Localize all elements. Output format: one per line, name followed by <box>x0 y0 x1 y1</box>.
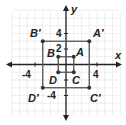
label-c: C <box>72 74 81 86</box>
label-d-prime: D′ <box>28 92 40 104</box>
tick-label-y-2: 2 <box>56 43 62 54</box>
point-d-prime <box>41 86 45 90</box>
tick-label-y-neg4: -4 <box>47 90 56 101</box>
label-b-prime: B′ <box>30 27 42 39</box>
label-a-prime: A′ <box>92 27 105 39</box>
label-b: B <box>47 47 55 59</box>
x-axis-right-arrow-icon <box>116 62 122 68</box>
tick-label-y-4: 4 <box>56 28 62 39</box>
label-d: D <box>49 74 57 86</box>
point-a-prime <box>87 39 91 43</box>
label-a: A <box>75 46 84 58</box>
y-axis-label: y <box>70 3 78 15</box>
tick-label-x-4: 4 <box>93 69 99 80</box>
y-axis-down-arrow-icon <box>63 115 69 121</box>
x-axis-label: x <box>114 49 122 61</box>
y-axis-up-arrow-icon <box>63 5 69 11</box>
point-b <box>56 55 60 59</box>
coordinate-plane: y x -4 4 4 2 -4 A′ B′ D′ C′ A B D C <box>0 0 126 125</box>
label-c-prime: C′ <box>90 92 102 104</box>
point-c-prime <box>87 86 91 90</box>
tick-label-x-neg4: -4 <box>22 69 31 80</box>
diagram-svg: y x -4 4 4 2 -4 A′ B′ D′ C′ A B D C <box>0 0 126 125</box>
point-b-prime <box>41 39 45 43</box>
x-axis-left-arrow-icon <box>6 62 12 68</box>
